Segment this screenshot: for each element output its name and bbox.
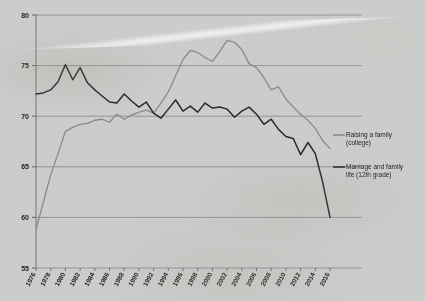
x-tick-label-2010: 2010 (274, 271, 287, 287)
x-tick-label-1990: 1990 (127, 271, 140, 287)
x-tick-label-1976: 1976 (24, 271, 37, 287)
y-tick-labels-group: 556065707580 (21, 12, 29, 272)
x-tick-label-2002: 2002 (215, 271, 228, 287)
x-tick-label-2006: 2006 (244, 271, 257, 287)
x-tick-label-2004: 2004 (230, 271, 243, 287)
x-tick-label-2012: 2012 (289, 271, 302, 287)
x-tick-label-1998: 1998 (186, 271, 199, 287)
line-chart: 556065707580 197619781980198219841986198… (0, 0, 425, 301)
data-series-group (36, 40, 330, 229)
x-tick-label-2016: 2016 (318, 271, 331, 287)
legend-label-0-line1: Raising a family (346, 131, 393, 139)
legend-label-1-line1: Marriage and family (346, 163, 404, 171)
legend-label-0-line2: (college) (346, 139, 371, 147)
x-tick-label-2008: 2008 (259, 271, 272, 287)
x-tick-label-1986: 1986 (97, 271, 110, 287)
chart-legend: Raising a family(college)Marriage and fa… (333, 131, 404, 179)
x-tick-label-1978: 1978 (39, 271, 52, 287)
y-tick-label-55: 55 (21, 265, 29, 272)
y-tick-label-70: 70 (21, 113, 29, 120)
x-tick-label-2014: 2014 (303, 271, 316, 287)
x-tick-label-1982: 1982 (68, 271, 81, 287)
gridlines-group (32, 15, 362, 271)
y-tick-label-75: 75 (21, 62, 29, 69)
y-tick-label-60: 60 (21, 214, 29, 221)
x-tick-label-1996: 1996 (171, 271, 184, 287)
x-tick-label-1992: 1992 (142, 271, 155, 287)
y-tick-label-80: 80 (21, 12, 29, 19)
x-tick-label-1994: 1994 (156, 271, 169, 287)
y-tick-label-65: 65 (21, 163, 29, 170)
x-tick-labels-group: 1976197819801982198419861988199019921994… (24, 271, 331, 287)
x-tick-label-1984: 1984 (83, 271, 96, 287)
series-line-1 (36, 65, 330, 218)
x-tick-label-2000: 2000 (200, 271, 213, 287)
x-tick-label-1988: 1988 (112, 271, 125, 287)
x-tick-label-1980: 1980 (53, 271, 66, 287)
legend-label-1-line2: life (12th grade) (346, 171, 392, 179)
